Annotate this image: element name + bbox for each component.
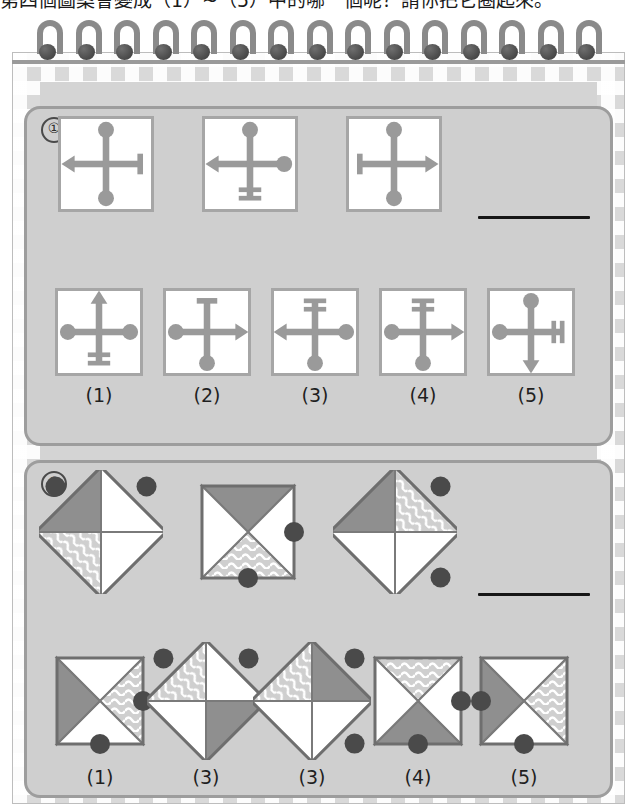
- quad-a[interactable]: [39, 470, 163, 594]
- coil-bead: [309, 44, 326, 60]
- quad-option-4[interactable]: [359, 642, 477, 760]
- marker-dot: [284, 522, 304, 542]
- spiral-coil: [227, 20, 261, 64]
- marker-dot: [431, 476, 451, 496]
- section-1-option-label: (5): [491, 384, 571, 406]
- marker-dot: [45, 476, 65, 496]
- section-2-option-label: (5): [484, 766, 564, 788]
- marker-dot: [514, 734, 534, 754]
- spiral-coil: [304, 20, 338, 64]
- spiral-coil: [496, 20, 530, 64]
- quad-b[interactable]: [186, 470, 310, 594]
- section-2-option-label: (3): [272, 766, 352, 788]
- coil-bead: [424, 44, 441, 60]
- cross-option-3[interactable]: [271, 288, 359, 376]
- spiral-coil: [73, 20, 107, 64]
- cross-a[interactable]: [58, 116, 154, 212]
- quad-option-5[interactable]: [465, 642, 583, 760]
- section-1-option-label: (1): [59, 384, 139, 406]
- quad-option-1[interactable]: [41, 642, 159, 760]
- marker-dot: [90, 734, 110, 754]
- spiral-coil: [535, 20, 569, 64]
- cross-option-2[interactable]: [163, 288, 251, 376]
- section-2-option-label: (3): [166, 766, 246, 788]
- coil-bead: [540, 44, 557, 60]
- marker-dot: [153, 648, 173, 668]
- coil-bead: [578, 44, 595, 60]
- section-1-option-label: (3): [275, 384, 355, 406]
- quad-option-3[interactable]: [253, 642, 371, 760]
- spiral-coil: [342, 20, 376, 64]
- spiral-coil: [111, 20, 145, 64]
- marker-dot: [238, 568, 258, 588]
- cross-c[interactable]: [346, 116, 442, 212]
- cross-option-5[interactable]: [487, 288, 575, 376]
- cross-option-4[interactable]: [379, 288, 467, 376]
- marker-dot: [431, 568, 451, 588]
- section-1-option-label: (2): [167, 384, 247, 406]
- coil-bead: [270, 44, 287, 60]
- quad-c[interactable]: [333, 470, 457, 594]
- marker-dot: [408, 734, 428, 754]
- cross-option-1[interactable]: [55, 288, 143, 376]
- section-1-answer-blank[interactable]: [478, 216, 590, 219]
- marker-dot: [137, 476, 157, 496]
- notebook-page: ① (1)(2)(3)(4)(5) ② (1)(3)(3)(4)(5): [0, 20, 637, 811]
- coil-bead: [116, 44, 133, 60]
- spiral-coil: [34, 20, 68, 64]
- coil-bead: [193, 44, 210, 60]
- coil-bead: [78, 44, 95, 60]
- question-text: 第四個圖案會變成（1）~（5）中的哪一個呢？請你把它圈起來。: [0, 0, 553, 12]
- marker-dot: [471, 691, 491, 711]
- spiral-coil: [150, 20, 184, 64]
- quad-option-2[interactable]: [147, 642, 265, 760]
- coil-bead: [232, 44, 249, 60]
- coil-bead: [463, 44, 480, 60]
- question-strip: 第四個圖案會變成（1）~（5）中的哪一個呢？請你把它圈起來。: [0, 0, 637, 20]
- section-1-option-label: (4): [383, 384, 463, 406]
- cross-b[interactable]: [202, 116, 298, 212]
- coil-bead: [155, 44, 172, 60]
- section-2-option-label: (4): [378, 766, 458, 788]
- section-2-answer-blank[interactable]: [478, 593, 590, 596]
- coil-bead: [501, 44, 518, 60]
- spiral-coil: [458, 20, 492, 64]
- section-2-option-label: (1): [60, 766, 140, 788]
- spiral-coil: [188, 20, 222, 64]
- spiral-coil: [265, 20, 299, 64]
- spiral-coil: [573, 20, 607, 64]
- coil-bead: [39, 44, 56, 60]
- spiral-coil: [419, 20, 453, 64]
- coil-bead: [347, 44, 364, 60]
- spiral-coil: [381, 20, 415, 64]
- coil-bead: [386, 44, 403, 60]
